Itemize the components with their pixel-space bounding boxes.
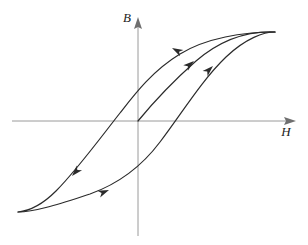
hysteresis-diagram: B H	[0, 0, 308, 245]
b-axis-label: B	[123, 10, 131, 25]
arrow-descending-lower-icon	[69, 165, 82, 178]
initial-magnetization-curve	[138, 32, 275, 121]
arrow-initial-curve-icon	[183, 58, 196, 71]
h-axis-label: H	[280, 124, 291, 139]
arrow-descending-upper-icon	[170, 45, 183, 57]
ascending-branch-curve	[18, 32, 275, 212]
descending-branch-curve	[18, 32, 275, 212]
hysteresis-figure: B H	[0, 0, 308, 245]
